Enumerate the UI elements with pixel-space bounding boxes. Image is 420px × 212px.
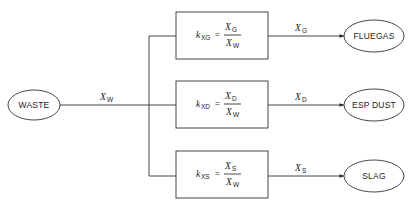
esp-dust-node: ESP DUST — [344, 89, 404, 121]
coef-sub: XS — [201, 173, 210, 180]
box-dust — [176, 81, 268, 128]
num-var: X — [224, 161, 232, 171]
box-gas — [176, 12, 268, 59]
den-var: X — [225, 107, 233, 117]
num-var: X — [224, 91, 232, 101]
fluegas-node: FLUEGAS — [344, 20, 404, 52]
slag-label: SLAG — [362, 171, 385, 181]
transfer-box-slag: k XS = X S X W — [176, 151, 268, 198]
waste-label: WASTE — [19, 100, 50, 110]
coef-sub: XG — [201, 34, 210, 41]
den-sub: W — [233, 111, 240, 118]
out-sub: S — [302, 167, 307, 174]
equals: = — [215, 99, 220, 108]
transfer-box-gas: k XG = X G X W — [176, 12, 268, 59]
equals: = — [215, 30, 220, 39]
equals: = — [215, 169, 220, 178]
waste-flow-label: X W — [99, 92, 114, 103]
out-var: X — [294, 92, 302, 102]
flow-diagram: WASTE X W k XG = X G X W X G FLUEGAS k X… — [0, 0, 420, 212]
den-var: X — [225, 177, 233, 187]
num-sub: G — [232, 26, 237, 33]
out-var: X — [294, 163, 302, 173]
out-var: X — [294, 23, 302, 33]
num-sub: S — [232, 165, 237, 172]
box-slag — [176, 151, 268, 198]
slag-node: SLAG — [344, 160, 404, 192]
den-sub: W — [233, 181, 240, 188]
fluegas-label: FLUEGAS — [353, 31, 394, 41]
waste-node: WASTE — [8, 90, 60, 120]
num-sub: D — [232, 95, 237, 102]
den-sub: W — [233, 42, 240, 49]
esp-dust-label: ESP DUST — [352, 100, 396, 110]
coef-sub: XD — [201, 103, 210, 110]
flow-sub: W — [107, 96, 114, 103]
out-sub: G — [302, 27, 307, 34]
out-sub: D — [302, 96, 307, 103]
den-var: X — [225, 38, 233, 48]
transfer-box-dust: k XD = X D X W — [176, 81, 268, 128]
flow-var: X — [99, 92, 107, 102]
num-var: X — [224, 22, 232, 32]
